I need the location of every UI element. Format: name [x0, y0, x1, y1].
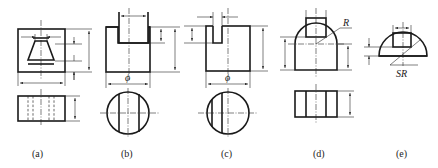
caption-b: (b): [121, 148, 133, 160]
panel-e: SR (e): [364, 22, 427, 160]
caption-c: (c): [221, 148, 232, 160]
panel-d: R (d): [280, 8, 354, 160]
phi-label-c: ϕ: [225, 72, 230, 83]
phi-label-b: ϕ: [125, 72, 130, 83]
panel-a: (a): [18, 20, 92, 160]
sphere-radius-label: SR: [396, 68, 407, 79]
radius-label: R: [342, 17, 349, 28]
caption-e: (e): [396, 148, 407, 160]
caption-d: (d): [313, 148, 325, 160]
panel-c: ϕ (c): [184, 8, 268, 160]
caption-a: (a): [32, 148, 43, 160]
panel-b: ϕ (b): [100, 8, 180, 160]
technical-drawing: (a) ϕ (b): [0, 0, 438, 168]
